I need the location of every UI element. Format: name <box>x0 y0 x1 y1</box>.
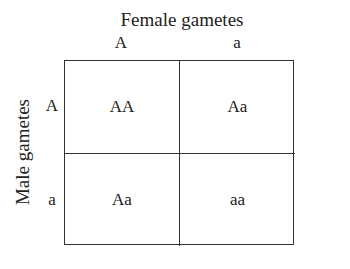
cell-Aa-top: Aa <box>180 61 295 154</box>
genotype-label: Aa <box>228 97 248 117</box>
column-label-a: a <box>222 33 252 53</box>
male-gametes-title: Male gametes <box>12 99 34 205</box>
genotype-label: Aa <box>112 190 132 210</box>
cell-Aa-bottom: Aa <box>65 154 180 246</box>
row-label-a: a <box>44 190 60 210</box>
female-gametes-title: Female gametes <box>112 9 252 31</box>
genotype-label: AA <box>110 97 135 117</box>
column-label-A: A <box>106 33 136 53</box>
row-label-A: A <box>44 96 60 116</box>
punnett-grid: AA Aa Aa aa <box>64 60 294 245</box>
cell-aa: aa <box>180 154 295 246</box>
cell-AA: AA <box>65 61 180 154</box>
genotype-label: aa <box>230 190 245 210</box>
